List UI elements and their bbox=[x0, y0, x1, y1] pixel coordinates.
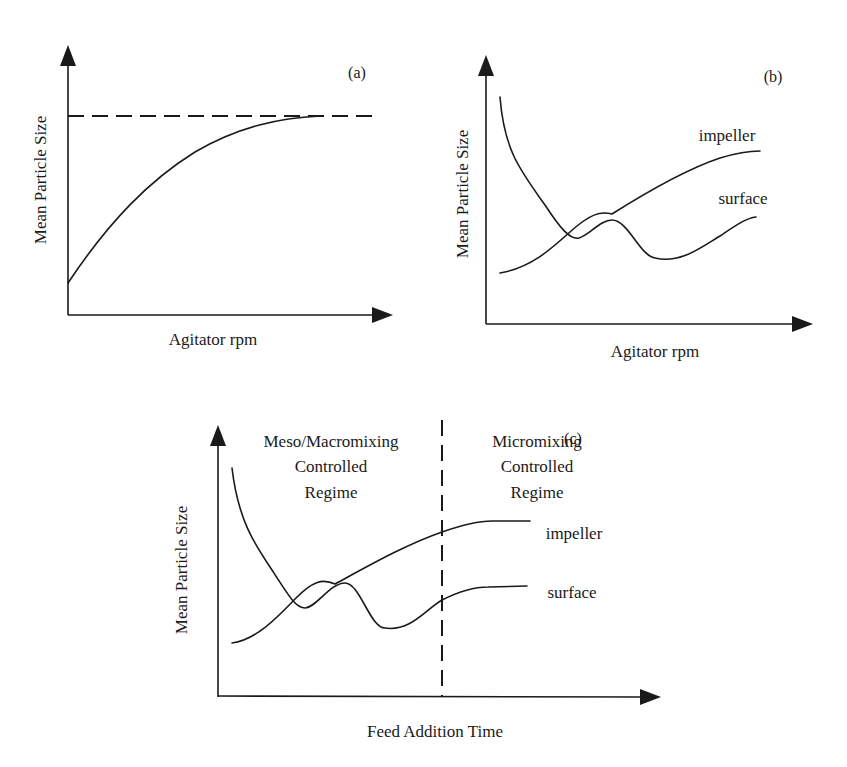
panel-c-axes bbox=[210, 425, 661, 705]
y-axis-label: Mean Particle Size bbox=[453, 130, 472, 258]
panel-label-b: (b) bbox=[764, 68, 783, 86]
svg-text:Controlled: Controlled bbox=[295, 457, 368, 476]
x-axis-arrowhead-icon bbox=[640, 689, 661, 705]
x-axis-label: Agitator rpm bbox=[169, 330, 257, 349]
svg-text:Controlled: Controlled bbox=[501, 457, 574, 476]
panel-a: (a) Agitator rpm Mean Particle Size bbox=[31, 45, 393, 349]
region-label-micromixing: Micromixing Controlled Regime bbox=[492, 432, 582, 502]
svg-text:Meso/Macromixing: Meso/Macromixing bbox=[263, 432, 399, 451]
y-axis-label: Mean Particle Size bbox=[172, 506, 191, 634]
svg-text:Regime: Regime bbox=[511, 483, 564, 502]
y-axis-arrowhead-icon bbox=[210, 425, 226, 446]
legend-label-surface: surface bbox=[547, 583, 596, 602]
panel-b: (b) impeller surface Agitator rpm Mean P… bbox=[453, 55, 813, 361]
svg-text:Micromixing: Micromixing bbox=[492, 432, 582, 451]
y-axis-label: Mean Particle Size bbox=[31, 116, 50, 244]
y-axis-arrowhead-icon bbox=[60, 45, 76, 66]
region-label-meso-macromixing: Meso/Macromixing Controlled Regime bbox=[263, 432, 399, 502]
x-axis-arrowhead-icon bbox=[372, 307, 393, 323]
curve-impeller bbox=[500, 151, 760, 273]
legend-label-impeller: impeller bbox=[546, 524, 603, 543]
panel-c: (c) Meso/Macromixing Controlled Regime M… bbox=[172, 420, 661, 741]
legend-label-impeller: impeller bbox=[699, 126, 756, 145]
figure-canvas: (a) Agitator rpm Mean Particle Size (b) … bbox=[0, 0, 847, 767]
x-axis-label: Feed Addition Time bbox=[367, 722, 503, 741]
panel-a-axes bbox=[60, 45, 393, 323]
curve-surface bbox=[232, 468, 527, 628]
svg-text:Regime: Regime bbox=[305, 483, 358, 502]
panel-label-a: (a) bbox=[348, 64, 366, 82]
x-axis-arrowhead-icon bbox=[792, 316, 813, 332]
curve-impeller bbox=[232, 521, 530, 643]
x-axis-line bbox=[218, 696, 646, 697]
x-axis-label: Agitator rpm bbox=[611, 342, 699, 361]
curve-surface bbox=[500, 97, 756, 259]
curve-mean-size bbox=[68, 116, 320, 283]
legend-label-surface: surface bbox=[718, 189, 767, 208]
y-axis-arrowhead-icon bbox=[478, 55, 494, 76]
